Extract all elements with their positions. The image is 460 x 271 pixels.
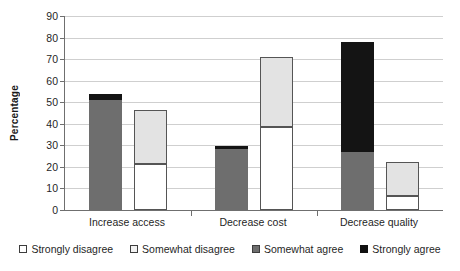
y-tick-label-30: 30 [46, 139, 58, 151]
bar-segment-strongly-agree [215, 146, 248, 148]
y-tick-mark-30 [60, 145, 65, 146]
y-tick-label-50: 50 [46, 96, 58, 108]
bar-segment-strongly-disagree [260, 127, 293, 210]
y-axis-title: Percentage [6, 58, 22, 168]
bar-segment-strongly-disagree [386, 196, 419, 210]
bar-increase-access-disagree [134, 110, 167, 210]
legend-label-somewhat-agree: Somewhat agree [264, 243, 343, 255]
y-tick-mark-80 [60, 38, 65, 39]
legend-item-strongly-agree[interactable]: Strongly agree [360, 243, 440, 255]
y-tick-mark-20 [60, 167, 65, 168]
gridline-70 [65, 59, 443, 60]
plot-area: 0102030405060708090 [64, 16, 443, 211]
legend-swatch-somewhat-agree-icon [252, 245, 260, 253]
legend-label-strongly-agree: Strongly agree [372, 243, 440, 255]
legend-item-somewhat-disagree[interactable]: Somewhat disagree [130, 243, 235, 255]
y-tick-label-20: 20 [46, 161, 58, 173]
y-tick-mark-70 [60, 59, 65, 60]
bar-segment-strongly-agree [89, 94, 122, 100]
legend-label-somewhat-disagree: Somewhat disagree [142, 243, 235, 255]
gridline-90 [65, 16, 443, 17]
bar-segment-somewhat-agree [215, 149, 248, 210]
legend-item-strongly-disagree[interactable]: Strongly disagree [19, 243, 113, 255]
bar-decrease-quality-disagree [386, 162, 419, 211]
bar-segment-somewhat-disagree [134, 110, 167, 164]
y-tick-mark-60 [60, 81, 65, 82]
y-tick-mark-40 [60, 124, 65, 125]
bar-segment-strongly-agree [341, 42, 374, 152]
legend-swatch-strongly-agree-icon [360, 245, 368, 253]
y-tick-mark-0 [60, 210, 65, 211]
y-tick-mark-90 [60, 16, 65, 17]
bar-segment-somewhat-disagree [260, 57, 293, 127]
x-axis-separator-1 [317, 210, 318, 216]
gridline-80 [65, 38, 443, 39]
legend-item-somewhat-agree[interactable]: Somewhat agree [252, 243, 343, 255]
x-axis-label-decrease-cost: Decrease cost [219, 216, 286, 228]
y-tick-mark-10 [60, 188, 65, 189]
bar-decrease-cost-disagree [260, 57, 293, 210]
x-axis-label-decrease-quality: Decrease quality [340, 216, 418, 228]
bar-segment-somewhat-agree [341, 152, 374, 210]
y-tick-label-0: 0 [52, 204, 58, 216]
y-tick-label-10: 10 [46, 182, 58, 194]
bar-decrease-cost-agree [215, 146, 248, 210]
chart-legend: Strongly disagreeSomewhat disagreeSomewh… [0, 243, 460, 255]
bar-segment-somewhat-disagree [386, 162, 419, 196]
bar-segment-somewhat-agree [89, 100, 122, 210]
bar-increase-access-agree [89, 94, 122, 210]
y-tick-label-90: 90 [46, 10, 58, 22]
gridline-60 [65, 81, 443, 82]
legend-swatch-somewhat-disagree-icon [130, 245, 138, 253]
x-axis-label-increase-access: Increase access [89, 216, 165, 228]
stacked-bar-chart: Percentage 0102030405060708090 Increase … [0, 0, 460, 271]
bar-segment-strongly-disagree [134, 164, 167, 210]
y-tick-label-80: 80 [46, 32, 58, 44]
y-tick-label-70: 70 [46, 53, 58, 65]
y-tick-label-40: 40 [46, 118, 58, 130]
legend-label-strongly-disagree: Strongly disagree [31, 243, 113, 255]
bar-decrease-quality-agree [341, 42, 374, 210]
y-tick-label-60: 60 [46, 75, 58, 87]
y-tick-mark-50 [60, 102, 65, 103]
x-axis-separator-0 [191, 210, 192, 216]
legend-swatch-strongly-disagree-icon [19, 245, 27, 253]
